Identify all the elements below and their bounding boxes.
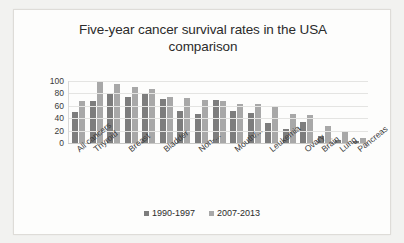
screenshot-frame: Five-year cancer survival rates in the U… <box>0 0 404 243</box>
y-axis-tick-label: 0 <box>59 139 64 148</box>
bar-group <box>195 81 208 143</box>
y-axis-tick-label: 80 <box>55 89 64 98</box>
y-axis-tick-label: 40 <box>55 114 64 123</box>
chart-title-line-1: Five-year cancer survival rates in the U… <box>34 21 372 38</box>
chart-card: Five-year cancer survival rates in the U… <box>13 9 391 235</box>
bar-group <box>335 81 348 143</box>
bar-group <box>265 81 278 143</box>
legend-item: 2007-2013 <box>209 208 260 218</box>
bar-group <box>160 81 173 143</box>
chart-legend: 1990-19972007-2013 <box>14 208 390 218</box>
bar-1990-1997 <box>230 111 236 143</box>
legend-swatch-icon <box>209 211 214 216</box>
bar-group <box>300 81 313 143</box>
y-axis: 100806040200 <box>40 81 64 143</box>
bar-1990-1997 <box>125 97 131 144</box>
y-axis-tick-label: 20 <box>55 126 64 135</box>
chart-title-line-2: comparison <box>34 38 372 55</box>
bar-group <box>72 81 85 143</box>
bar-group <box>353 81 366 143</box>
x-axis-labels: All cancersThyroidBreastBladderNon-...Mo… <box>68 145 378 205</box>
gridline <box>69 106 368 107</box>
bar-1990-1997 <box>72 112 78 143</box>
bar-group <box>125 81 138 143</box>
y-axis-tick-label: 60 <box>55 101 64 110</box>
legend-label: 2007-2013 <box>217 208 260 218</box>
gridline <box>69 118 368 119</box>
legend-label: 1990-1997 <box>152 208 195 218</box>
gridline <box>69 81 368 82</box>
legend-swatch-icon <box>144 211 149 216</box>
y-axis-tick-label: 100 <box>50 77 64 86</box>
bar-1990-1997 <box>265 123 271 143</box>
bar-2007-2013 <box>132 87 138 143</box>
legend-item: 1990-1997 <box>144 208 195 218</box>
bar-group <box>230 81 243 143</box>
gridline <box>69 93 368 94</box>
bar-1990-1997 <box>300 122 306 143</box>
chart-title: Five-year cancer survival rates in the U… <box>34 21 372 55</box>
